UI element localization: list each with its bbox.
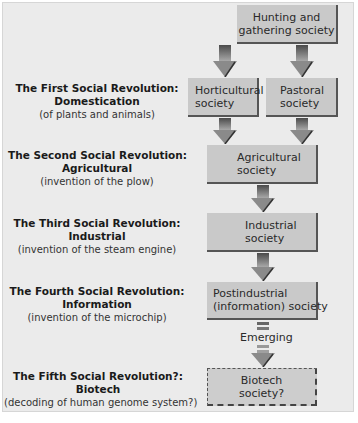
box-text: Hunting and [253, 11, 321, 24]
box-text: Industrial [245, 219, 316, 232]
arrow-down-icon [213, 118, 237, 144]
box-agricultural: Agricultural society [207, 145, 318, 184]
box-text: society [280, 97, 336, 110]
revolution-subtitle: (invention of the microchip) [8, 311, 186, 324]
box-text: society [237, 164, 316, 177]
arrow-down-icon [290, 118, 314, 144]
revolution-title: The Fifth Social Revolution?: [4, 370, 192, 383]
box-text: society [195, 97, 257, 110]
revolution-subtitle: (decoding of human genome system?) [4, 396, 192, 409]
dashed-arrow-down-icon [251, 321, 275, 367]
revolution-title: Information [8, 298, 186, 311]
revolution-title: The Fourth Social Revolution: [8, 285, 186, 298]
emerging-label: Emerging [239, 331, 294, 344]
box-text: Biotech [241, 374, 282, 387]
revolution-label-first: The First Social Revolution: Domesticati… [8, 82, 186, 121]
box-postindustrial: Postindustrial (information) society [207, 282, 318, 320]
box-text: society [245, 232, 316, 245]
arrow-down-icon [251, 185, 275, 212]
box-horticultural: Horticultural society [188, 78, 259, 117]
box-text: Agricultural [237, 151, 316, 164]
revolution-label-third: The Third Social Revolution: Industrial … [8, 217, 186, 256]
arrow-down-icon [213, 45, 237, 77]
box-text: gathering society [239, 24, 335, 37]
revolution-title: The Second Social Revolution: [8, 149, 186, 162]
revolution-title: The First Social Revolution: [8, 82, 186, 95]
revolution-label-second: The Second Social Revolution: Agricultur… [8, 149, 186, 188]
box-text: Pastoral [280, 84, 336, 97]
revolution-subtitle: (invention of the plow) [8, 175, 186, 188]
revolution-title: Domestication [8, 95, 186, 108]
revolution-label-fifth: The Fifth Social Revolution?: Biotech (d… [4, 370, 192, 409]
revolution-subtitle: (of plants and animals) [8, 108, 186, 121]
revolution-title: Agricultural [8, 162, 186, 175]
revolution-title: Industrial [8, 230, 186, 243]
box-text: Horticultural [195, 84, 257, 97]
arrow-down-icon [251, 253, 275, 281]
revolution-title: The Third Social Revolution: [8, 217, 186, 230]
revolution-subtitle: (invention of the steam engine) [8, 243, 186, 256]
revolution-label-fourth: The Fourth Social Revolution: Informatio… [8, 285, 186, 324]
box-biotech: Biotech society? [207, 368, 317, 406]
box-hunting-gathering: Hunting and gathering society [237, 5, 338, 44]
arrow-down-icon [290, 45, 314, 77]
revolution-title: Biotech [4, 383, 192, 396]
box-text: Postindustrial [213, 287, 316, 300]
box-pastoral: Pastoral society [266, 78, 338, 117]
box-text: (information) society [213, 300, 316, 313]
box-text: society? [239, 387, 284, 400]
box-industrial: Industrial society [207, 213, 318, 252]
